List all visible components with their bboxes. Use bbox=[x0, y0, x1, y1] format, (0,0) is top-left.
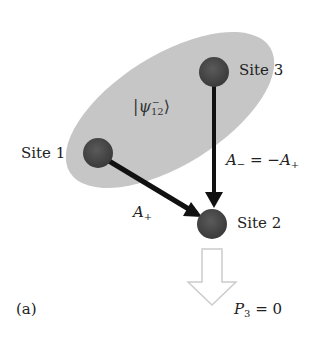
psi-superscript: − bbox=[152, 98, 160, 107]
entanglement-ellipse bbox=[41, 1, 299, 219]
output-arrow-icon bbox=[188, 249, 236, 305]
site-3-label: Site 2 bbox=[237, 216, 281, 231]
p-main: P bbox=[234, 300, 244, 318]
entangled-state-label: |ψ−12⟩ bbox=[133, 99, 170, 117]
amplitude-minus-label: A− = −A+ bbox=[226, 153, 299, 170]
p-eq: = 0 bbox=[250, 300, 282, 318]
a-plus-main: A bbox=[133, 203, 144, 221]
psi-subscript: −12 bbox=[151, 106, 164, 117]
ket-right: ⟩ bbox=[164, 97, 170, 116]
site-1-node bbox=[83, 138, 113, 168]
psi-symbol: ψ bbox=[138, 97, 151, 116]
a-plus-sub: + bbox=[144, 211, 152, 222]
a-minus-eq: = −A bbox=[245, 151, 291, 169]
psi-subscript-text: 12 bbox=[151, 106, 164, 117]
site-2-node bbox=[199, 57, 229, 87]
site-3-node bbox=[197, 209, 227, 239]
a-minus-sub: − bbox=[237, 159, 245, 170]
probability-label: P3 = 0 bbox=[234, 302, 282, 319]
arrowhead-site2-site3 bbox=[205, 192, 223, 208]
a-minus-eq-sub: + bbox=[291, 159, 299, 170]
amplitude-plus-label: A+ bbox=[133, 205, 152, 222]
site-2-label: Site 3 bbox=[239, 63, 283, 78]
a-minus-main: A bbox=[226, 151, 237, 169]
site-1-label: Site 1 bbox=[21, 146, 65, 161]
panel-label: (a) bbox=[16, 302, 37, 317]
diagram-canvas bbox=[0, 0, 322, 342]
